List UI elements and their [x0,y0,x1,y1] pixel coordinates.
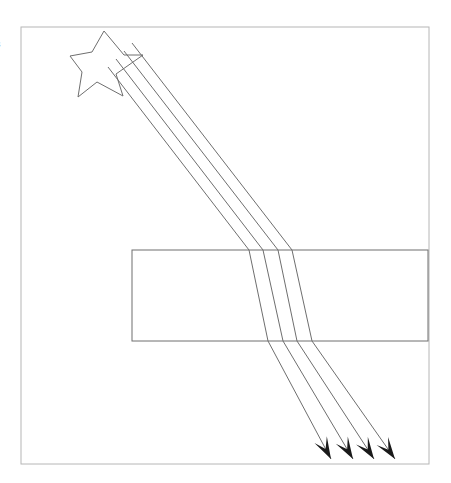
refraction-diagram-svg [0,0,451,483]
clipped-edge-text: s [0,36,12,52]
canvas-background [0,0,451,483]
diagram-canvas: s [0,0,451,483]
